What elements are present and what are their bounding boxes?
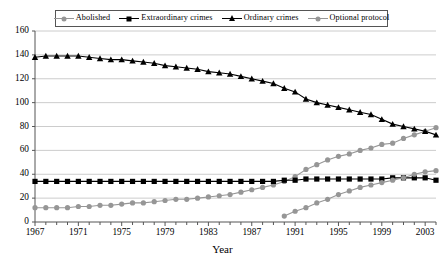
data-point [433,168,438,173]
data-point [347,188,352,193]
data-point [43,179,48,184]
data-point [303,167,308,172]
data-point [173,179,178,184]
data-point [97,179,102,184]
data-point [227,179,232,184]
y-tick-label-40: 40 [0,169,29,178]
data-point [184,179,189,184]
data-point [390,178,395,183]
data-point [119,179,124,184]
data-point [260,185,265,190]
data-point [260,179,265,184]
data-point [195,179,200,184]
data-point [303,176,308,181]
x-tick-label-1983: 1983 [188,228,228,237]
data-point [195,196,200,201]
data-point [325,197,330,202]
data-point [130,200,135,205]
data-point [108,179,113,184]
data-point [76,179,81,184]
data-point [54,179,59,184]
data-point [282,213,287,218]
data-point [347,176,352,181]
data-point [412,132,417,137]
data-point [347,151,352,156]
data-point [271,179,276,184]
y-tick-label-120: 120 [0,74,29,83]
chart-plot-area [0,0,445,264]
data-point [152,199,157,204]
y-tick-label-0: 0 [0,217,29,226]
data-point [141,200,146,205]
data-point [76,204,81,209]
x-tick-label-2003: 2003 [405,228,445,237]
data-point [130,179,135,184]
data-point [412,172,417,177]
data-point [293,209,298,214]
y-tick-label-60: 60 [0,145,29,154]
x-tick-label-1987: 1987 [232,228,272,237]
data-point [238,179,243,184]
data-point [314,162,319,167]
data-point [141,179,146,184]
data-point [249,179,254,184]
data-point [206,194,211,199]
x-tick-label-1975: 1975 [102,228,142,237]
data-point [282,178,287,183]
data-point [65,179,70,184]
data-point [358,148,363,153]
data-point [32,179,37,184]
y-tick-label-100: 100 [0,98,29,107]
data-point [184,197,189,202]
data-point [97,203,102,208]
data-point [368,182,373,187]
data-point [65,205,70,210]
data-point [314,176,319,181]
data-point [54,205,59,210]
data-point [227,192,232,197]
data-point [249,187,254,192]
data-point [206,179,211,184]
x-axis-title: Year [0,243,445,255]
x-tick-label-1979: 1979 [145,228,185,237]
data-point [390,141,395,146]
data-point [358,176,363,181]
data-point [108,203,113,208]
data-point [368,176,373,181]
data-point [173,197,178,202]
data-point [336,176,341,181]
data-point [336,154,341,159]
x-tick-label-1995: 1995 [318,228,358,237]
data-point [379,142,384,147]
data-point [87,179,92,184]
data-point [32,205,37,210]
data-point [293,178,298,183]
y-tick-label-20: 20 [0,193,29,202]
data-point [87,204,92,209]
x-tick-label-1971: 1971 [58,228,98,237]
data-point [217,193,222,198]
data-point [43,205,48,210]
data-point [401,136,406,141]
data-point [433,125,438,130]
data-point [401,175,406,180]
data-point [423,175,428,180]
data-point [119,201,124,206]
data-point [238,190,243,195]
y-tick-label-80: 80 [0,122,29,131]
data-point [358,185,363,190]
data-point [217,179,222,184]
data-point [433,178,438,183]
x-tick-label-1967: 1967 [15,228,55,237]
data-point [152,179,157,184]
data-point [325,157,330,162]
data-point [303,205,308,210]
data-point [423,169,428,174]
data-point [368,145,373,150]
data-point [162,179,167,184]
data-point [379,180,384,185]
x-tick-label-1991: 1991 [275,228,315,237]
data-point [162,198,167,203]
data-point [314,200,319,205]
data-point [325,176,330,181]
